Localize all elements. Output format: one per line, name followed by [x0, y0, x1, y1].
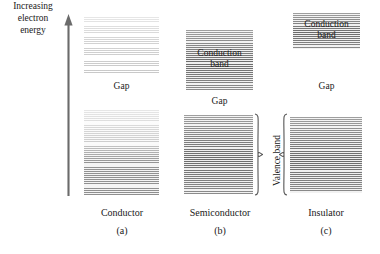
column-tag-conductor: (a) — [74, 224, 170, 238]
column-caption-semiconductor: Semiconductor — [170, 206, 270, 220]
column-caption-conductor: Conductor — [74, 206, 170, 220]
increasing-energy-arrow-icon — [64, 14, 73, 196]
column-tag-insulator: (c) — [278, 224, 374, 238]
insulator-conduction-band-label-line-1: Conduction — [293, 19, 360, 30]
insulator-gap-label: Gap — [293, 81, 360, 93]
energy-axis-label-line-3: energy — [0, 24, 66, 36]
conductor-gap-label: Gap — [84, 81, 159, 93]
semiconductor-conduction-band-label-line-1: Conduction — [186, 48, 253, 59]
energy-axis-label: Increasing electron energy — [0, 0, 66, 36]
energy-axis-label-line-1: Increasing — [0, 0, 66, 12]
conductor-upper-band — [84, 17, 159, 73]
band-diagram-figure: Increasing electron energy Gap Conductor… — [0, 0, 380, 254]
column-tag-semiconductor: (b) — [170, 224, 270, 238]
semiconductor-conduction-band-label-line-2: band — [186, 59, 253, 70]
insulator-conduction-band: Conduction band — [293, 13, 360, 49]
semiconductor-valence-band — [184, 115, 253, 194]
insulator-valence-band — [290, 117, 362, 193]
semiconductor-valence-brace-icon — [254, 113, 264, 196]
insulator-valence-brace-icon — [278, 113, 288, 196]
energy-axis-label-line-2: electron — [0, 12, 66, 24]
semiconductor-conduction-band: Conduction band — [186, 30, 253, 90]
semiconductor-gap-label: Gap — [186, 96, 253, 108]
conductor-lower-band — [84, 110, 159, 195]
column-caption-insulator: Insulator — [278, 206, 374, 220]
insulator-conduction-band-label-line-2: band — [293, 30, 360, 41]
